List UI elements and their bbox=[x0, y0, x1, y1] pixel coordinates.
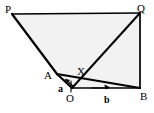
geometry-canvas: P Q A X O B a b bbox=[0, 0, 154, 113]
segment-P-Q bbox=[12, 13, 140, 14]
vector-label-a: a bbox=[58, 83, 63, 94]
geometry-figure: P Q A X O B a b bbox=[0, 0, 154, 113]
vertex-label-Q: Q bbox=[137, 2, 145, 14]
vertex-label-O: O bbox=[66, 92, 74, 104]
vertex-label-X: X bbox=[77, 65, 85, 77]
vector-label-b: b bbox=[104, 94, 110, 105]
vertex-label-A: A bbox=[44, 69, 52, 81]
vertex-label-B: B bbox=[140, 90, 147, 102]
vertex-label-P: P bbox=[5, 3, 11, 15]
